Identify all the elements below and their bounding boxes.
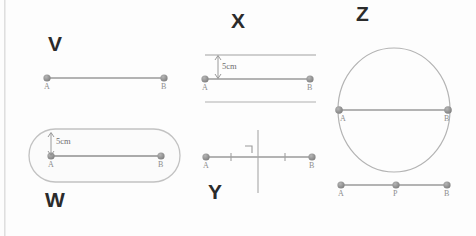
point-a-bottom xyxy=(337,181,344,188)
point-label-b-w: B xyxy=(158,161,163,169)
point-b-W xyxy=(157,152,164,159)
point-b-bottom xyxy=(443,181,450,188)
dimension-label-w: 5cm xyxy=(56,137,71,146)
point-label-b-x: B xyxy=(307,84,312,92)
point-label-a-v: A xyxy=(44,83,50,91)
diagram-canvas xyxy=(0,0,476,236)
point-a-V xyxy=(43,74,50,81)
right-angle-mark-Y xyxy=(245,146,252,153)
figure-label-x: X xyxy=(231,10,245,31)
panel-ap-b-figure xyxy=(337,181,450,188)
point-label-b-v: B xyxy=(161,83,166,91)
panel-W-figure xyxy=(29,129,180,182)
point-b-Z xyxy=(444,106,452,114)
point-label-p-bottom: P xyxy=(393,190,397,198)
point-label-b-z: B xyxy=(444,115,449,123)
point-b-Y xyxy=(308,153,315,160)
figure-label-y: Y xyxy=(208,181,222,202)
figure-label-z: Z xyxy=(356,3,369,24)
point-b-V xyxy=(160,74,167,81)
point-label-a-x: A xyxy=(202,84,208,92)
point-label-a-w: A xyxy=(48,161,54,169)
figure-label-w: W xyxy=(45,189,65,210)
point-p-bottom xyxy=(392,181,399,188)
point-a-X xyxy=(201,75,208,82)
point-label-b-y: B xyxy=(309,162,314,170)
point-label-a-z: A xyxy=(340,115,346,123)
figure-label-v: V xyxy=(48,33,62,54)
point-label-b-bottom: B xyxy=(444,190,449,198)
point-label-a-y: A xyxy=(203,162,209,170)
panel-X-figure xyxy=(201,55,316,102)
point-label-a-bottom: A xyxy=(338,190,344,198)
panel-V-figure xyxy=(43,74,167,81)
dimension-label-x: 5cm xyxy=(222,62,237,71)
panel-Z-figure xyxy=(335,48,452,172)
point-a-Y xyxy=(202,153,209,160)
point-b-X xyxy=(306,75,313,82)
point-a-Z xyxy=(335,106,343,114)
geometry-worksheet-image: V X Z W Y A B A B 5cm A B A B 5cm A B A … xyxy=(0,0,476,236)
